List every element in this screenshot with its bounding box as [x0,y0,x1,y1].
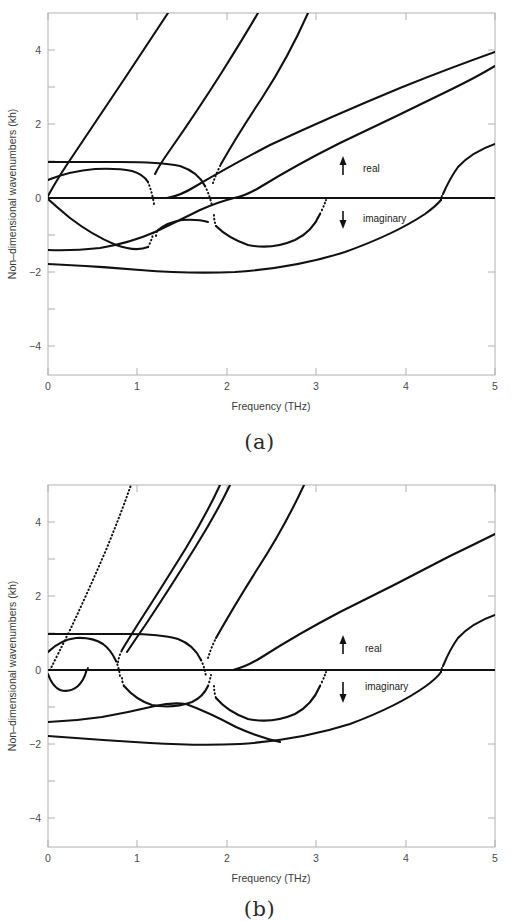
real-branch-6-gap-b [208,638,216,658]
panel-a-plot: 0 1 2 3 4 5 4 [0,0,519,420]
real-branch-1-gap-b [201,660,206,677]
y-tick-label-2: 2 [35,118,41,130]
real-branch-7-a [234,66,495,198]
x-tick-label-2-b: 2 [224,852,230,864]
real-branch-1-a [48,162,205,186]
real-branch-8-b [443,615,495,666]
panel-b: 0 1 2 3 4 5 4 2 [0,460,519,922]
y-tick-label-neg4-b: −4 [29,812,41,824]
y-tick-label-0-b: 0 [35,664,41,676]
y-tick-label-neg2: −2 [29,266,41,278]
real-branch-2-gap-b [116,661,120,676]
real-branch-5-a [221,13,308,164]
x-tick-label-3: 3 [313,380,319,392]
real-branch-8-a [443,144,495,194]
real-branch-5-b [127,485,230,652]
imag-branch-3-b [216,686,320,721]
real-branch-7-b [233,534,495,670]
y-tick-label-4-b: 4 [35,516,41,528]
panel-a: 0 1 2 3 4 5 4 [0,0,519,460]
panel-b-plot: 0 1 2 3 4 5 4 2 [0,472,519,892]
x-tick-label-5-b: 5 [492,852,498,864]
imag-branch-2-gapL-b [122,678,124,686]
imag-branch-4-a [48,198,234,250]
arrow-down-icon [340,220,347,229]
real-branch-4-a [155,13,258,174]
panel-caption-a: (a) [0,430,519,454]
x-axis-title-b: Frequency (THz) [232,872,311,884]
legend-imaginary-label-a: imaginary [363,213,406,224]
y-tick-label-neg2-b: −2 [29,738,41,750]
imag-branch-3-gap-b [214,686,216,698]
legend-imaginary-label-b: imaginary [365,681,408,692]
imag-branch-5-a [48,200,441,273]
x-tick-label-0: 0 [45,380,51,392]
real-branch-4-b [122,485,220,650]
legend-real-a: real [340,156,380,175]
legend-real-b: real [340,635,382,654]
legend-imaginary-a: imaginary [340,211,407,229]
x-tick-label-1-b: 1 [134,852,140,864]
legend-real-label-b: real [365,643,382,654]
x-tick-label-5: 5 [492,380,498,392]
x-ticks-a [48,13,495,375]
x-ticks-b [48,485,495,847]
y-tick-label-4: 4 [35,44,41,56]
imag-branch-2-gapR-b [208,675,211,686]
y-tick-label-0: 0 [35,192,41,204]
x-tick-label-3-b: 3 [313,852,319,864]
curves-b [48,485,495,745]
x-tick-label-4-b: 4 [403,852,409,864]
imag-branch-3-gapR-b [320,672,326,686]
imag-branch-3-a [216,214,320,247]
imag-branch-1-b [48,672,86,691]
x-tick-label-1: 1 [134,380,140,392]
real-branch-4-gap-b [118,650,122,662]
real-branch-1-gap-a [205,186,212,206]
real-branch-6-b [216,485,304,638]
arrow-up-icon [340,156,347,165]
y-tick-label-neg4: −4 [29,340,41,352]
y-tick-label-2-b: 2 [35,590,41,602]
imag-branch-4b-b [186,704,280,742]
legend-imaginary-b: imaginary [340,681,409,703]
imag-branch-3-gapR-a [320,200,326,214]
real-branch-2-b [48,638,116,661]
axes-frame-a [48,13,495,375]
x-tick-label-0-b: 0 [45,852,51,864]
y-axis-title-a: Non–dimensional wavenumbers (kh) [6,109,18,279]
arrow-down-icon [340,694,347,703]
imag-branch-2-a [158,220,208,230]
x-tick-label-2: 2 [224,380,230,392]
x-axis-title-a: Frequency (THz) [232,400,311,412]
dispersion-curves-figure: 0 1 2 3 4 5 4 [0,0,519,922]
real-branch-2-gap-a [148,182,154,204]
x-tick-label-4: 4 [403,380,409,392]
y-axis-title-b: Non–dimensional wavenumbers (kh) [6,581,18,751]
axes-frame-b [48,485,495,847]
curves-a [48,13,495,273]
panel-caption-b: (b) [0,897,519,921]
imag-branch-1-a [48,199,148,249]
arrow-up-icon [340,635,347,644]
imag-branch-3-gap-a [214,215,216,226]
legend-real-label-a: real [363,163,380,174]
